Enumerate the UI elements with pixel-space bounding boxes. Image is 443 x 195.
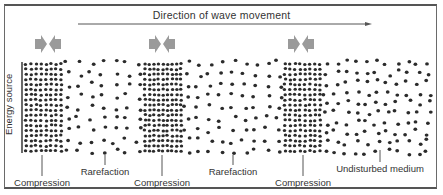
label-compression: Compression (275, 177, 331, 188)
compression-arrow-icon (288, 35, 314, 53)
label-undisturbed-medium: Undisturbed medium (336, 163, 424, 174)
label-compression: Compression (134, 177, 190, 188)
label-rarefaction: Rarefaction (81, 166, 130, 177)
compression-arrows (35, 35, 314, 53)
direction-arrow-icon (78, 22, 372, 26)
wave-diagram: Direction of wave movement Energy source… (0, 0, 443, 195)
label-compression: Compression (14, 177, 70, 188)
particle-field (24, 58, 433, 156)
label-rarefaction: Rarefaction (209, 166, 258, 177)
compression-arrow-icon (35, 35, 61, 53)
compression-arrow-icon (149, 35, 175, 53)
